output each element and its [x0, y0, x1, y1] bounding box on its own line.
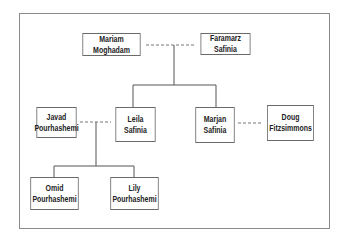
person-name: Mariam Moghadam: [83, 34, 140, 55]
person-name-line1: Javad: [47, 112, 67, 123]
person-name-line1: Marjan: [204, 114, 226, 125]
person-box-marjan-safinia: Marjan Safinia: [195, 107, 234, 143]
person-box-omid-pourhashemi: Omid Pourhashemi: [30, 177, 78, 210]
person-box-leila-safinia: Leila Safinia: [115, 107, 155, 142]
person-name-line2: Pourhashemi: [34, 123, 78, 134]
person-box-javad-pourhashemi: Javad Pourhashemi: [36, 107, 76, 138]
person-name-line1: Lily: [128, 183, 140, 194]
person-box-mariam-moghadam: Mariam Moghadam: [82, 33, 140, 56]
person-name: Faramarz Safinia: [201, 33, 249, 54]
person-box-faramarz-safinia: Faramarz Safinia: [200, 33, 250, 55]
person-name-line1: Omid: [46, 183, 64, 194]
person-name-line2: Pourhashemi: [32, 194, 76, 205]
person-name-line1: Doug: [282, 112, 300, 123]
person-box-doug-fitzsimmons: Doug Fitzsimmons: [267, 105, 314, 141]
person-name-line2: Fitzsimmons: [269, 123, 312, 134]
person-name: Leila Safinia: [116, 114, 155, 135]
person-box-lily-pourhashemi: Lily Pourhashemi: [110, 177, 158, 210]
person-name-line2: Pourhashemi: [112, 194, 156, 205]
person-name-line2: Safinia: [204, 125, 227, 136]
